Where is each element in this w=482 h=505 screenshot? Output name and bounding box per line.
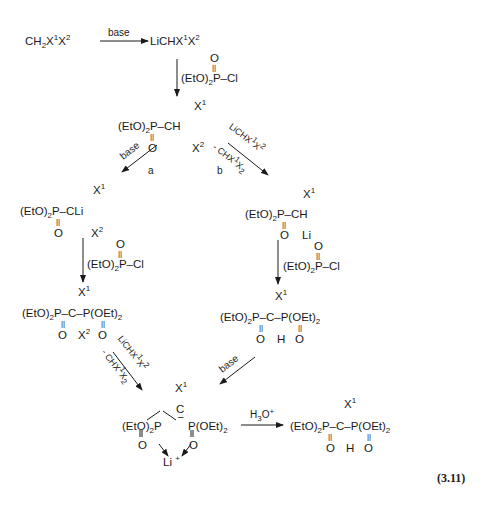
x2-label: X2 [78,329,90,341]
bisphosphonate-b: (EtO)2P–C–P(OEt)2 [220,311,320,323]
path-a-label: a [148,165,154,177]
lithiated-phosphonate-b: (EtO)2P–CH [245,208,308,220]
diethyl-chlorophosphate-1: (EtO)2P–Cl [181,72,238,84]
x1-label: X1 [344,398,356,410]
reagent-base-step1: base [108,27,130,39]
oxygen-label: O [326,442,335,454]
hydrogen-label: H [277,333,285,345]
chelate-right-phosphonate: P(OEt)2 [188,420,228,432]
lithium-cation: Li + [163,456,180,468]
x2-label: X2 [192,142,204,154]
reactant-dihalomethane: CH2X1X2 [25,35,70,47]
x2-label: X2 [91,227,103,239]
scheme-arrows [0,0,482,505]
diethyl-chlorophosphate-b: (EtO)2P–Cl [283,260,340,272]
x1-label: X1 [303,188,315,200]
bisphosphonate-a: (EtO)2P–C–P(OEt)2 [22,307,122,319]
lithium-label: Li [302,229,311,241]
diethyl-chlorophosphate-a: (EtO)2P–Cl [87,258,144,270]
oxygen-label: O [138,439,147,451]
reagent-hydronium: H3O+ [250,409,274,421]
oxygen-label: O [256,333,265,345]
x1-label: X1 [275,290,287,302]
lithiated-phosphonate-a: (EtO)2P–CLi [20,205,83,217]
lithium-carbenoid: LiCHX1X2 [150,35,200,47]
negative-charge: – [178,411,184,423]
x1-label: X1 [93,184,105,196]
equation-number: (3.11) [437,471,465,486]
oxygen-label: O [54,227,63,239]
hydrogen-label: H [346,442,354,454]
oxygen-label: O [280,229,289,241]
oxygen-label: O [189,439,198,451]
final-bisphosphonate: (EtO)2P–C–P(OEt)2 [290,420,390,432]
x1-label: X1 [78,286,90,298]
x1-label: X1 [175,382,187,394]
chelate-left-phosphonate: (EtO)2P [122,420,162,432]
x1-label: X1 [194,100,206,112]
oxygen-label: O [295,333,304,345]
path-b-label: b [217,165,223,177]
oxygen-label: O [364,442,373,454]
oxygen-label: O [98,329,107,341]
oxygen-label: O [148,142,157,154]
oxygen-label: O [58,329,67,341]
